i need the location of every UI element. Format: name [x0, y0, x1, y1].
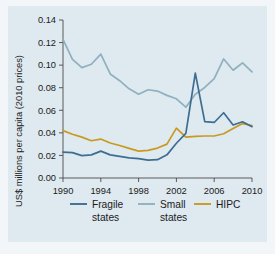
- x-tick-label: 1998: [128, 186, 149, 196]
- legend-label-2-line2: states: [160, 212, 187, 223]
- series-line-hipc: [63, 124, 252, 152]
- y-tick-label: 0.06: [38, 106, 56, 116]
- chart-legend: FragilestatesSmallstatesHIPC: [70, 199, 240, 223]
- chart-panel: US$ millions per capita (2010 prices) 0.…: [8, 6, 267, 242]
- y-tick-label: 0.04: [38, 128, 56, 138]
- y-tick-label: 0.12: [38, 38, 56, 48]
- legend-label-1-line2: states: [92, 212, 119, 223]
- x-tick-label: 1990: [53, 186, 74, 196]
- x-axis-ticks: 199019941998200220062010: [53, 178, 263, 196]
- x-tick-label: 2002: [166, 186, 187, 196]
- y-tick-label: 0.08: [38, 83, 56, 93]
- x-tick-label: 1994: [90, 186, 111, 196]
- y-axis-title-label: US$ millions per capita (2010 prices): [14, 55, 24, 207]
- chart-figure: US$ millions per capita (2010 prices) 0.…: [0, 0, 275, 254]
- series-line-small-states: [63, 39, 252, 107]
- data-series-group: [63, 39, 252, 160]
- series-line-fragile-states: [63, 73, 252, 160]
- legend-label-3: HIPC: [216, 199, 240, 210]
- y-tick-label: 0.00: [38, 173, 56, 183]
- y-tick-label: 0.10: [38, 60, 56, 70]
- y-axis-ticks: 0.000.020.040.060.080.100.120.14: [38, 15, 63, 183]
- y-axis-title: US$ millions per capita (2010 prices): [14, 55, 24, 207]
- legend-label-1: Fragile: [92, 199, 123, 210]
- x-tick-label: 2010: [242, 186, 263, 196]
- legend-label-2: Small: [160, 199, 185, 210]
- x-tick-label: 2006: [204, 186, 225, 196]
- line-chart: US$ millions per capita (2010 prices) 0.…: [8, 6, 267, 242]
- y-tick-label: 0.02: [38, 151, 56, 161]
- y-tick-label: 0.14: [38, 15, 56, 25]
